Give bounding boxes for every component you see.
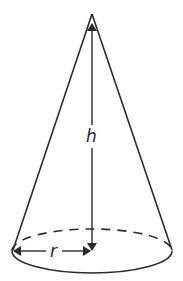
radius-label: r [50, 241, 58, 261]
cone-left-edge [13, 14, 92, 250]
cone-right-edge [92, 14, 172, 250]
base-ellipse-front [12, 251, 172, 273]
cone-diagram: h r [0, 0, 183, 281]
height-label: h [86, 126, 97, 146]
